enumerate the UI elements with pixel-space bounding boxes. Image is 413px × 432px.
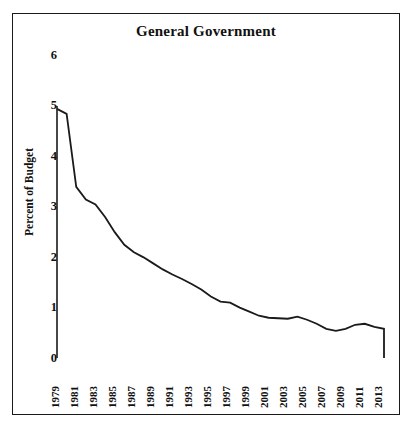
chart-figure: General Government Percent of Budget 6 5… (12, 13, 400, 415)
chart-svg (13, 14, 401, 416)
data-series-line (57, 109, 384, 358)
plot-area: Percent of Budget 6 5 4 3 2 1 0 1979 198… (13, 14, 401, 416)
